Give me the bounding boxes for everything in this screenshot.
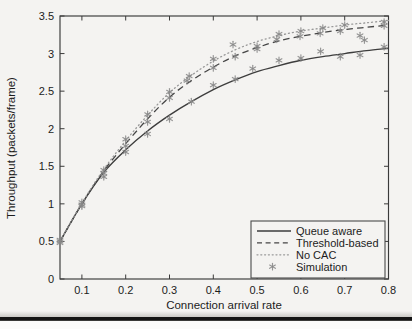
x-tick-label: 0.1 — [74, 284, 89, 296]
y-tick-label: 3.5 — [39, 10, 54, 22]
y-tick-label: 0 — [48, 273, 54, 285]
plot-generated-content: 0.10.20.30.40.50.60.70.800.511.522.533.5… — [39, 10, 396, 296]
simulation-marker — [337, 28, 343, 35]
legend-label: No CAC — [296, 249, 336, 261]
simulation-marker — [210, 56, 216, 63]
simulation-marker — [318, 48, 324, 55]
x-tick-label: 0.8 — [381, 284, 396, 296]
x-tick-label: 0.7 — [337, 284, 352, 296]
y-tick-label: 3 — [48, 48, 54, 60]
simulation-marker — [362, 37, 368, 44]
y-axis-label: Throughput (packets/frame) — [5, 77, 17, 219]
page-margin-below-rule — [0, 320, 412, 329]
simulation-marker — [276, 57, 282, 64]
simulation-marker — [189, 98, 195, 105]
y-tick-label: 2.5 — [39, 85, 54, 97]
legend-label: Queue aware — [296, 225, 362, 237]
x-tick-label: 0.6 — [293, 284, 308, 296]
y-tick-label: 0.5 — [39, 235, 54, 247]
simulation-marker — [167, 89, 173, 96]
simulation-marker — [145, 119, 151, 126]
x-tick-label: 0.3 — [162, 284, 177, 296]
scanned-figure-page: 0.10.20.30.40.50.60.70.800.511.522.533.5… — [0, 0, 412, 329]
curve-queue-aware — [60, 48, 389, 241]
simulation-marker — [145, 131, 151, 138]
x-tick-label: 0.5 — [249, 284, 264, 296]
simulation-markers — [57, 19, 387, 247]
y-tick-label: 2 — [48, 123, 54, 135]
simulation-marker — [230, 41, 236, 48]
simulation-marker — [342, 22, 348, 29]
legend-label: Simulation — [296, 261, 347, 273]
simulation-marker — [357, 52, 363, 59]
legend-label: Threshold-based — [296, 237, 379, 249]
x-tick-label: 0.2 — [118, 284, 133, 296]
y-tick-label: 1 — [48, 198, 54, 210]
x-axis-label: Connection arrival rate — [166, 299, 282, 311]
y-tick-label: 1.5 — [39, 160, 54, 172]
throughput-vs-arrival-rate-chart: 0.10.20.30.40.50.60.70.800.511.522.533.5… — [0, 0, 412, 329]
simulation-marker — [250, 65, 256, 72]
simulation-marker — [357, 32, 363, 39]
simulation-marker — [298, 28, 304, 35]
x-tick-label: 0.4 — [206, 284, 221, 296]
legend: Queue awareThreshold-basedNo CACSimulati… — [251, 221, 385, 278]
simulation-marker — [210, 82, 216, 89]
